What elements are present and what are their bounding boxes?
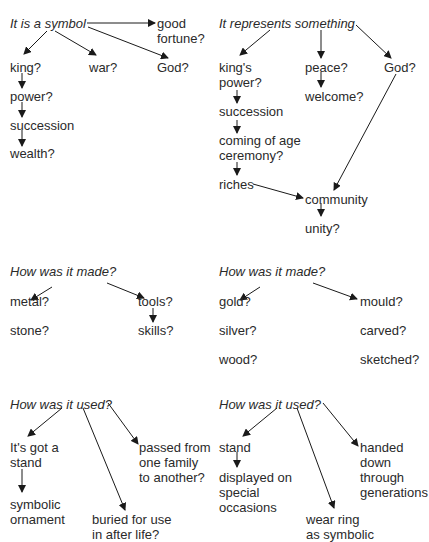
node-as-symbolic: as symbolic bbox=[306, 527, 374, 542]
used-left-heading: How was it used? bbox=[10, 397, 112, 412]
node-tools: tools? bbox=[138, 294, 173, 309]
node-in-after-life: in after life? bbox=[92, 527, 159, 542]
node-its-got-a: It's got a bbox=[10, 440, 59, 455]
node-skills: skills? bbox=[138, 323, 173, 338]
node-riches: riches bbox=[219, 177, 254, 192]
node-buried-for-use: buried for use bbox=[92, 512, 172, 527]
node-peace: peace? bbox=[305, 60, 348, 75]
node-gold: gold? bbox=[219, 294, 251, 309]
made-right-heading: How was it made? bbox=[219, 264, 325, 279]
node-occasions: occasions bbox=[219, 500, 277, 515]
node-fortune: fortune? bbox=[157, 31, 205, 46]
node-sketched: sketched? bbox=[360, 352, 419, 367]
node-power: power? bbox=[10, 89, 53, 104]
node-war: war? bbox=[89, 60, 117, 75]
node-welcome: welcome? bbox=[305, 89, 364, 104]
node-stand: stand bbox=[10, 455, 42, 470]
node-one-family: one family bbox=[139, 455, 198, 470]
node-wear-ring: wear ring bbox=[306, 512, 359, 527]
node-displayed-on: displayed on bbox=[219, 470, 292, 485]
node-ceremony: ceremony? bbox=[219, 148, 283, 163]
node-down: down bbox=[360, 455, 391, 470]
node-metal: metal? bbox=[10, 294, 49, 309]
node-handed: handed bbox=[360, 440, 403, 455]
node-stand: stand bbox=[219, 440, 251, 455]
node-succession: succession bbox=[219, 104, 283, 119]
made-left-heading: How was it made? bbox=[10, 264, 116, 279]
node-wealth: wealth? bbox=[10, 146, 55, 161]
node-mould: mould? bbox=[360, 294, 403, 309]
node-god: God? bbox=[384, 60, 416, 75]
node-god: God? bbox=[157, 60, 189, 75]
node-community: community bbox=[305, 192, 368, 207]
node-kings: king's bbox=[219, 60, 252, 75]
node-passed-from: passed from bbox=[139, 440, 211, 455]
node-generations: generations bbox=[360, 485, 428, 500]
node-succession: succession bbox=[10, 118, 74, 133]
node-coming-of-age: coming of age bbox=[219, 133, 301, 148]
node-unity: unity? bbox=[305, 221, 340, 236]
node-king: king? bbox=[10, 60, 41, 75]
represents-heading: It represents something bbox=[219, 16, 355, 31]
node-symbolic: symbolic bbox=[10, 497, 61, 512]
node-silver: silver? bbox=[219, 323, 257, 338]
node-to-another: to another? bbox=[139, 470, 205, 485]
node-wood: wood? bbox=[219, 352, 257, 367]
node-special: special bbox=[219, 485, 259, 500]
symbol-heading: It is a symbol bbox=[10, 16, 86, 31]
node-stone: stone? bbox=[10, 323, 49, 338]
node-good: good bbox=[157, 16, 186, 31]
used-right-heading: How was it used? bbox=[219, 397, 321, 412]
node-through: through bbox=[360, 470, 404, 485]
node-power: power? bbox=[219, 75, 262, 90]
node-carved: carved? bbox=[360, 323, 406, 338]
node-ornament: ornament bbox=[10, 512, 65, 527]
